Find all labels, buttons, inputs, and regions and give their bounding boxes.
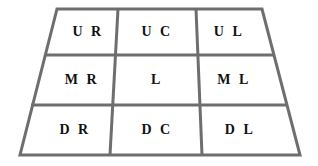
zone-label-down-left: D L — [225, 123, 255, 137]
zone-label-down-right: D R — [59, 123, 90, 137]
zone-label-middle-left: M L — [217, 73, 251, 87]
zone-label-upper-center: U C — [141, 25, 172, 39]
zone-label-middle-right: M R — [65, 73, 99, 87]
zone-label-upper-left: U L — [214, 25, 244, 39]
zone-label-center: L — [151, 73, 163, 87]
perspective-zone-diagram: U R U C U L M R L M L D R D C D L — [0, 0, 318, 166]
zone-label-upper-right: U R — [72, 25, 103, 39]
zone-label-down-center: D C — [141, 123, 172, 137]
